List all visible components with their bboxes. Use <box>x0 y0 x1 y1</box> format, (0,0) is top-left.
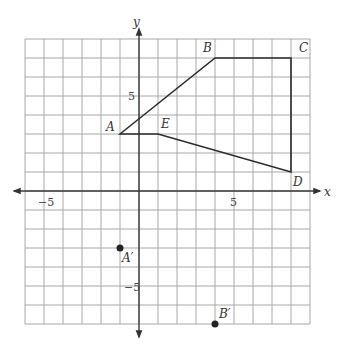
x-tick-neg5: −5 <box>38 196 54 209</box>
point-label: B′ <box>218 307 231 321</box>
point-dot <box>212 321 219 328</box>
y-tick-5: 5 <box>128 90 135 103</box>
vertex-label-b: B <box>202 41 212 55</box>
vertex-label-d: D <box>292 175 303 189</box>
y-tick-neg5: −5 <box>124 281 140 294</box>
point-label: A′ <box>121 251 134 265</box>
grid-lines <box>25 39 310 324</box>
coordinate-plane: x y −5 5 5 −5 ABCDE A′B′ <box>0 0 340 356</box>
vertex-label-a: A <box>105 120 115 134</box>
x-tick-5: 5 <box>230 196 237 209</box>
x-axis-label: x <box>324 185 331 199</box>
vertex-label-c: C <box>299 41 308 55</box>
vertex-label-e: E <box>160 117 170 131</box>
y-axis-label: y <box>132 15 140 29</box>
